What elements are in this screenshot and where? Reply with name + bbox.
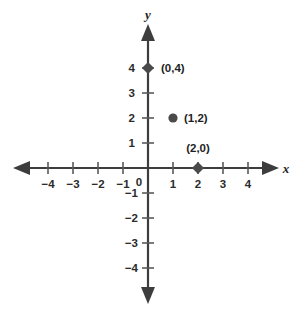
data-point-marker-0-4 (142, 62, 154, 74)
y-tick-label-neg2: −2 (125, 212, 138, 224)
x-tick-label-pos4: 4 (245, 178, 252, 190)
y-axis-label: y (143, 7, 151, 22)
coordinate-plane-figure: −4 −3 −2 −1 1 2 3 4 0 4 3 2 1 −1 −2 −3 −… (0, 0, 301, 312)
data-point-label-2-0: (2,0) (186, 142, 210, 154)
y-tick-label-pos4: 4 (129, 62, 136, 74)
y-axis-down-arrow-icon (141, 287, 155, 304)
x-tick-label-neg3: −3 (66, 178, 79, 190)
x-axis-left-arrow-icon (13, 161, 30, 175)
data-point-label-0-4: (0,4) (161, 62, 185, 74)
y-tick-label-pos3: 3 (129, 87, 135, 99)
y-tick-label-neg3: −3 (125, 237, 138, 249)
x-tick-label-neg2: −2 (91, 178, 104, 190)
y-tick-label-pos2: 2 (129, 112, 135, 124)
y-tick-label-neg1: −1 (125, 187, 139, 199)
x-tick-label-neg4: −4 (41, 178, 55, 190)
data-point-marker-2-0 (192, 162, 204, 174)
data-point-marker-1-2 (168, 113, 177, 122)
y-tick-label-pos1: 1 (129, 137, 136, 149)
y-axis-up-arrow-icon (141, 24, 155, 41)
data-point-label-1-2: (1,2) (184, 112, 208, 124)
x-tick-label-pos3: 3 (220, 178, 226, 190)
x-axis-label: x (282, 161, 290, 176)
x-axis-right-arrow-icon (262, 161, 279, 175)
x-tick-label-pos2: 2 (195, 178, 201, 190)
x-tick-label-pos1: 1 (170, 178, 177, 190)
y-tick-label-neg4: −4 (125, 262, 139, 274)
